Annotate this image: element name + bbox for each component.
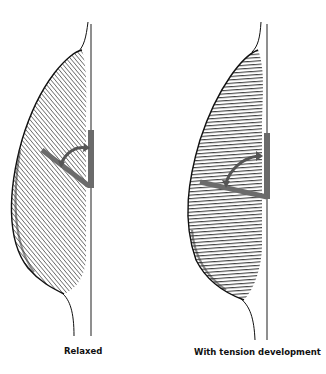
caption-relaxed: Relaxed	[64, 346, 102, 356]
distal-tendon-tension	[240, 298, 255, 340]
muscle-belly-relaxed	[11, 50, 86, 294]
proximal-tendon-relaxed	[78, 22, 88, 52]
relaxed-panel	[11, 22, 94, 336]
aponeurosis-bar-tension	[264, 133, 270, 199]
proximal-tendon-tension	[252, 22, 261, 52]
distal-tendon-relaxed	[62, 293, 74, 336]
caption-tension: With tension development	[194, 347, 321, 357]
muscle-belly-tension	[188, 50, 263, 300]
aponeurosis-bar-relaxed	[88, 130, 94, 188]
pennate-muscle-diagram	[0, 0, 326, 374]
tension-panel	[188, 22, 270, 340]
